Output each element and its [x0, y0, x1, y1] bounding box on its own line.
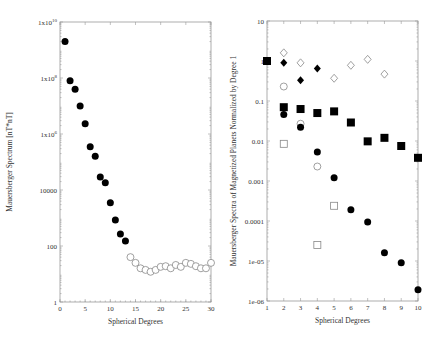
data-point [364, 218, 371, 225]
data-point [313, 109, 321, 117]
x-tick-label: 0 [58, 305, 62, 313]
y-axis-label: Mauersberger Spectrum [nT*nT] [5, 112, 14, 211]
y-axis-label: Mauersberger Spectra of Magnetized Plane… [229, 55, 238, 266]
series-open-circle [127, 254, 215, 276]
x-tick-label: 15 [132, 305, 140, 313]
data-point [87, 143, 94, 150]
left-chart-mauersberger-spectrum: 0510152025301x10101x1081x106100001001Sph… [5, 18, 215, 327]
data-point [297, 105, 305, 113]
x-tick-label: 10 [415, 304, 423, 312]
y-tick-label: 1e-06 [248, 298, 264, 306]
data-point [208, 259, 215, 266]
data-point [127, 254, 134, 261]
series-open-diamond [280, 49, 388, 82]
x-tick-label: 3 [299, 304, 303, 312]
data-point [331, 74, 338, 82]
data-point [280, 111, 287, 118]
plot-frame [267, 21, 418, 301]
y-tick-label: 1x108 [41, 74, 58, 83]
data-point [107, 199, 114, 206]
y-tick-label: 100 [47, 243, 58, 251]
right-chart-normalized-spectra: 123456789101010.10.010.0010.00011e-051e-… [229, 18, 422, 326]
x-tick-label: 7 [366, 304, 370, 312]
x-tick-label: 30 [208, 305, 216, 313]
data-point [97, 174, 104, 181]
x-axis-label: Spherical Degrees [315, 316, 370, 325]
data-point [67, 77, 74, 84]
y-tick-label: 0.01 [252, 138, 265, 146]
data-point [132, 259, 139, 266]
series-open-square [280, 140, 337, 248]
x-tick-label: 25 [182, 305, 190, 313]
data-point [380, 134, 388, 142]
x-tick-label: 5 [332, 304, 336, 312]
data-point [62, 38, 69, 45]
data-point [314, 242, 321, 249]
data-point [415, 286, 422, 293]
data-point [122, 238, 129, 245]
data-point [414, 154, 422, 162]
y-tick-label: 10000 [40, 187, 58, 195]
y-tick-label: 1x106 [41, 130, 58, 139]
y-tick-label: 0.1 [255, 98, 264, 106]
data-point [314, 163, 321, 170]
data-point [202, 265, 209, 272]
x-tick-label: 1 [265, 304, 269, 312]
data-point [117, 230, 124, 237]
data-point [297, 59, 304, 67]
x-tick-label: 4 [316, 304, 320, 312]
data-point [347, 206, 354, 213]
y-tick-label: 1 [54, 299, 58, 307]
data-point [72, 86, 79, 93]
series-filled-circle [280, 111, 421, 293]
data-point [112, 216, 119, 223]
figure-canvas: 0510152025301x10101x1081x106100001001Sph… [0, 0, 443, 342]
data-point [77, 103, 84, 110]
y-tick-label: 0.0001 [245, 218, 265, 226]
x-tick-label: 8 [383, 304, 387, 312]
data-point [398, 259, 405, 266]
data-point [331, 202, 338, 209]
data-point [381, 249, 388, 256]
y-tick-label: 1e-05 [248, 258, 264, 266]
series-filled-circle [62, 38, 129, 244]
data-point [82, 120, 89, 127]
data-point [331, 174, 338, 181]
y-tick-label: 0.001 [248, 178, 264, 186]
x-tick-label: 20 [157, 305, 165, 313]
data-point [280, 103, 288, 111]
x-tick-label: 10 [107, 305, 115, 313]
data-point [297, 124, 304, 131]
data-point [314, 149, 321, 156]
data-point [280, 59, 287, 67]
data-point [280, 140, 287, 147]
data-point [381, 70, 388, 78]
data-point [102, 179, 109, 186]
data-point [280, 49, 287, 57]
data-point [263, 57, 271, 65]
data-point [330, 107, 338, 115]
data-point [347, 61, 354, 69]
data-point [347, 119, 355, 127]
data-point [92, 153, 99, 160]
data-point [314, 64, 321, 72]
data-point [280, 83, 287, 90]
x-tick-label: 5 [83, 305, 87, 313]
y-tick-label: 10 [257, 18, 265, 26]
data-point [364, 55, 371, 63]
x-tick-label: 6 [349, 304, 353, 312]
data-point [397, 142, 405, 150]
data-point [297, 76, 304, 84]
x-tick-label: 9 [399, 304, 403, 312]
x-axis-label: Spherical Degrees [108, 317, 163, 326]
data-point [364, 137, 372, 145]
x-tick-label: 2 [282, 304, 286, 312]
y-tick-label: 1x1010 [38, 18, 58, 27]
